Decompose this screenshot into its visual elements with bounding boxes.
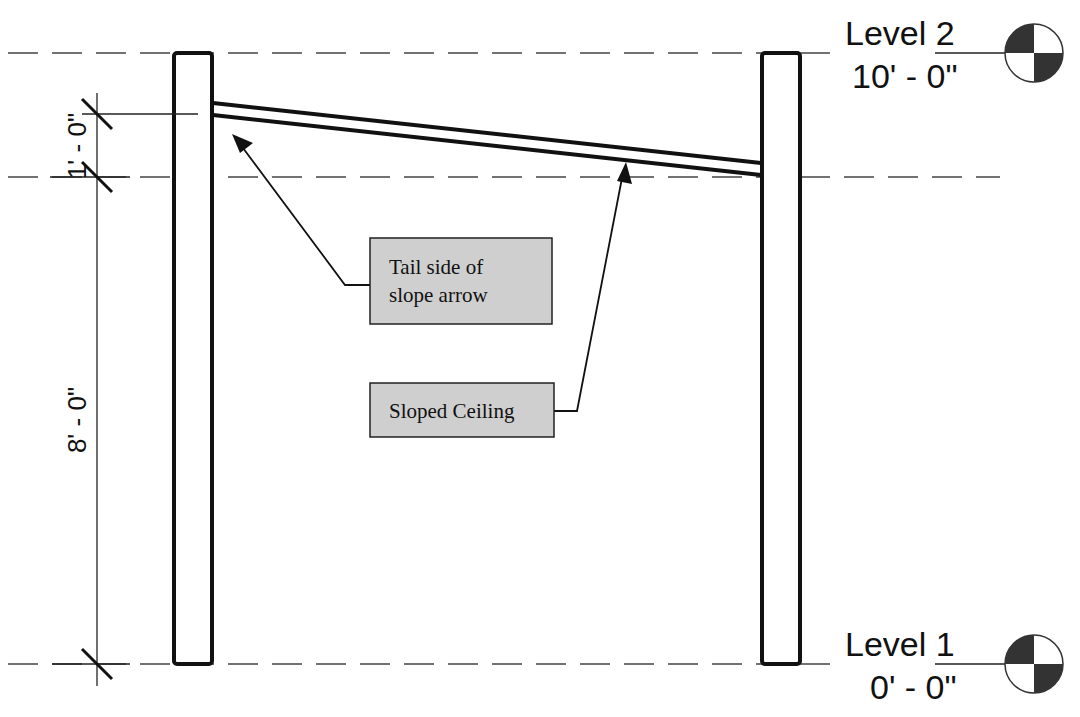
level-2-name: Level 2 bbox=[845, 14, 955, 52]
callout-sloped-ceiling[interactable]: Sloped Ceiling bbox=[370, 383, 554, 437]
ceiling-leader bbox=[554, 162, 632, 411]
callout-tail-line1: Tail side of bbox=[389, 255, 483, 279]
level-2-elevation: 10' - 0" bbox=[852, 57, 958, 95]
dimension-label-1ft: 1' - 0" bbox=[62, 113, 92, 179]
level-1-elevation: 0' - 0" bbox=[870, 668, 957, 706]
callout-ceiling-label: Sloped Ceiling bbox=[389, 399, 515, 423]
arrowhead-icon bbox=[617, 162, 632, 184]
level-1-name: Level 1 bbox=[845, 625, 955, 663]
level-2-target-icon bbox=[1005, 24, 1063, 82]
section-diagram: 1' - 0" 8' - 0" Level 2 10' - 0" Level 1… bbox=[0, 0, 1080, 717]
level-1-target-icon bbox=[1005, 635, 1063, 693]
tail-leader bbox=[232, 134, 370, 285]
level-2-marker[interactable]: Level 2 10' - 0" bbox=[845, 14, 1063, 95]
callout-tail-side[interactable]: Tail side of slope arrow bbox=[370, 238, 552, 324]
callout-tail-line2: slope arrow bbox=[389, 283, 488, 307]
level-1-marker[interactable]: Level 1 0' - 0" bbox=[845, 625, 1063, 706]
sloped-ceiling[interactable] bbox=[213, 103, 761, 175]
dimension-label-8ft: 8' - 0" bbox=[62, 387, 92, 453]
left-wall[interactable] bbox=[174, 53, 212, 664]
arrowhead-icon bbox=[232, 134, 253, 153]
right-wall[interactable] bbox=[762, 53, 800, 664]
